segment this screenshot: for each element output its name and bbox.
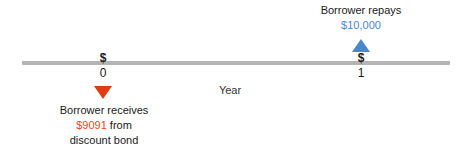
receives-amount-line: $9091 from — [33, 118, 175, 133]
repays-annotation: Borrower repays $10,000 — [296, 3, 426, 33]
receives-amount: $9091 — [76, 119, 107, 131]
repays-label: Borrower repays — [296, 3, 426, 18]
repays-amount: $10,000 — [296, 18, 426, 33]
receives-source: discount bond — [33, 133, 175, 148]
timeline-tick-0: $ 0 — [83, 52, 123, 80]
dollar-sign-icon: $ — [83, 52, 123, 64]
timeline-tick-1: $ 1 — [341, 52, 381, 80]
axis-caption: Year — [190, 84, 270, 96]
timeline-tick-1-label: 1 — [341, 66, 381, 80]
cash-flow-timeline-diagram: Borrower repays $10,000 $ 0 $ 1 Year Bor… — [0, 0, 463, 148]
dollar-sign-icon: $ — [341, 52, 381, 64]
receives-annotation: Borrower receives $9091 from discount bo… — [33, 103, 175, 148]
triangle-down-icon — [94, 86, 112, 99]
timeline-tick-0-label: 0 — [83, 66, 123, 80]
receives-amount-suffix: from — [107, 119, 132, 131]
receives-label: Borrower receives — [33, 103, 175, 118]
